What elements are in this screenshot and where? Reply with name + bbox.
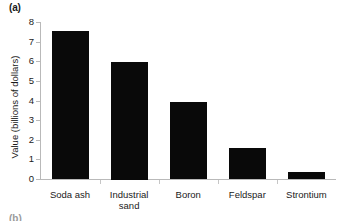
- y-axis-tick-mark: [36, 159, 40, 160]
- bar: [111, 62, 148, 180]
- x-axis-category-label: Soda ash: [38, 189, 103, 200]
- bar: [288, 172, 325, 180]
- bar-chart-plot-area: 012345678 Soda ashIndustrial sandBoronFe…: [0, 0, 338, 223]
- x-axis-category-label: Feldspar: [215, 189, 280, 200]
- y-axis-tick-label: 6: [22, 56, 34, 66]
- y-axis-line: [40, 22, 41, 180]
- x-axis-tick-mark: [218, 180, 219, 184]
- y-axis-tick-label-text: 4: [22, 96, 34, 106]
- y-axis-tick-label: 5: [22, 76, 34, 86]
- y-axis-tick-mark: [36, 42, 40, 43]
- x-axis-tick-mark: [277, 180, 278, 184]
- y-axis-tick-mark: [36, 179, 40, 180]
- bar: [170, 102, 207, 180]
- y-axis-tick-label-text: 8: [22, 17, 34, 27]
- y-axis-tick-mark: [36, 61, 40, 62]
- y-axis-tick-mark: [36, 81, 40, 82]
- y-axis-tick-label-text: 0: [22, 174, 34, 184]
- y-axis-tick-label-text: 6: [22, 56, 34, 66]
- y-axis-tick-label: 8: [22, 17, 34, 27]
- y-axis-tick-label-text: 5: [22, 76, 34, 86]
- y-axis-tick-label: 2: [22, 135, 34, 145]
- y-axis-tick-mark: [36, 22, 40, 23]
- y-axis-tick-label: 3: [22, 115, 34, 125]
- y-axis-tick-label-text: 3: [22, 115, 34, 125]
- x-axis-tick-mark: [159, 180, 160, 184]
- bar: [52, 31, 89, 179]
- bar: [229, 148, 266, 179]
- y-axis-tick-label-text: 7: [22, 37, 34, 47]
- y-axis-tick-label-text: 2: [22, 135, 34, 145]
- y-axis-tick-mark: [36, 101, 40, 102]
- x-axis-category-label: Industrial sand: [97, 189, 162, 211]
- x-axis-category-label: Boron: [156, 189, 221, 200]
- y-axis-tick-label: 1: [22, 154, 34, 164]
- y-axis-tick-label: 4: [22, 96, 34, 106]
- y-axis-tick-label-text: 1: [22, 154, 34, 164]
- y-axis-tick-label: 7: [22, 37, 34, 47]
- y-axis-tick-mark: [36, 140, 40, 141]
- y-axis-tick-mark: [36, 120, 40, 121]
- y-axis-tick-label: 0: [22, 174, 34, 184]
- x-axis-tick-mark: [100, 180, 101, 184]
- x-axis-category-label: Strontium: [274, 189, 338, 200]
- panel-label-b: (b): [9, 213, 22, 221]
